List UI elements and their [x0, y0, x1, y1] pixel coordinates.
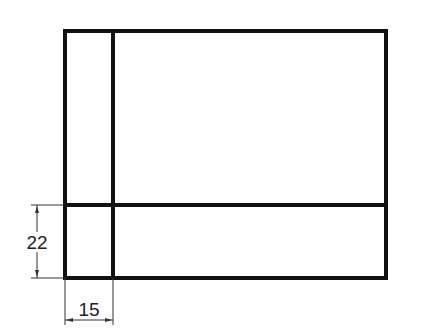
arrow-head-icon	[66, 318, 73, 322]
arrow-head-icon	[35, 206, 39, 213]
height-dimension: 22	[22, 205, 65, 278]
height-dimension-label: 22	[26, 232, 47, 253]
arrow-head-icon	[105, 318, 112, 322]
width-dimension: 15	[65, 278, 113, 325]
width-dimension-label: 15	[78, 299, 99, 320]
technical-drawing: 22 15	[0, 0, 423, 330]
arrow-head-icon	[35, 270, 39, 277]
